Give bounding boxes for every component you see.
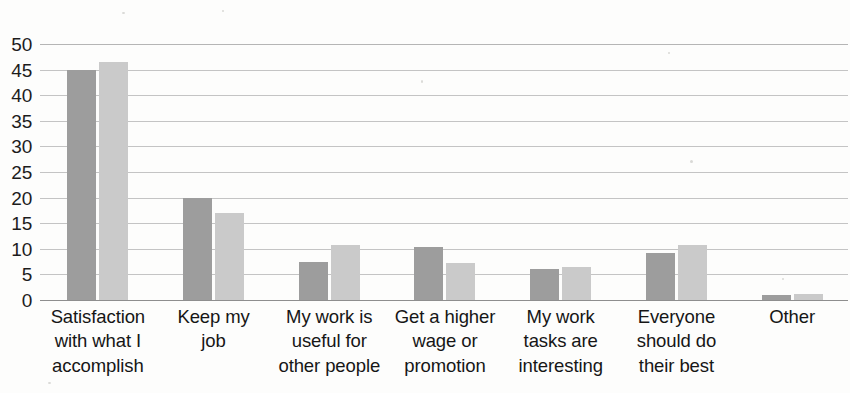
bar-1 — [331, 245, 360, 300]
y-tick-label: 35 — [11, 111, 32, 130]
category-label-line: accomplish — [40, 354, 156, 378]
bar-0 — [530, 269, 559, 300]
category-label-line: Other — [734, 305, 850, 329]
y-tick-label: 15 — [11, 214, 32, 233]
category-label-line: their best — [619, 354, 735, 378]
category-label: Other — [734, 305, 850, 329]
category-label: Keep myjob — [156, 305, 272, 354]
y-tick-label: 45 — [11, 60, 32, 79]
category-label-line: Get a higher — [387, 305, 503, 329]
bar-group — [40, 44, 156, 300]
y-tick-label: 25 — [11, 163, 32, 182]
bar-1 — [215, 213, 244, 300]
y-tick-label: 30 — [11, 137, 32, 156]
bar-group — [271, 44, 387, 300]
bar-group — [156, 44, 272, 300]
bar-group — [387, 44, 503, 300]
category-label: My work isuseful forother people — [271, 305, 387, 378]
chart-screenshot: 05101520253035404550 Satisfactionwith wh… — [0, 0, 850, 393]
bar-1 — [99, 62, 128, 300]
bar-1 — [794, 294, 823, 300]
y-tick-label: 50 — [11, 35, 32, 54]
x-axis-category-labels: Satisfactionwith what IaccomplishKeep my… — [40, 305, 850, 393]
bar-group — [619, 44, 735, 300]
category-label-line: useful for — [271, 329, 387, 353]
y-tick-label: 5 — [22, 265, 32, 284]
y-tick-label: 0 — [22, 291, 32, 310]
bar-1 — [678, 245, 707, 300]
bar-1 — [562, 267, 591, 300]
category-label-line: Satisfaction — [40, 305, 156, 329]
bar-0 — [183, 198, 212, 300]
y-tick-label: 20 — [11, 188, 32, 207]
bar-0 — [414, 247, 443, 300]
category-label: Satisfactionwith what Iaccomplish — [40, 305, 156, 378]
bar-0 — [762, 295, 791, 300]
bar-1 — [446, 263, 475, 300]
category-label-line: tasks are — [503, 329, 619, 353]
bar-0 — [646, 253, 675, 300]
category-label-line: interesting — [503, 354, 619, 378]
bar-chart: 05101520253035404550 Satisfactionwith wh… — [0, 0, 850, 393]
bar-group — [734, 44, 850, 300]
category-label-line: My work — [503, 305, 619, 329]
category-label-line: job — [156, 329, 272, 353]
category-label-line: promotion — [387, 354, 503, 378]
y-tick-label: 40 — [11, 86, 32, 105]
category-label-line: with what I — [40, 329, 156, 353]
category-label-line: Keep my — [156, 305, 272, 329]
y-axis: 05101520253035404550 — [0, 0, 36, 393]
bar-0 — [299, 262, 328, 300]
bar-group — [503, 44, 619, 300]
bar-0 — [67, 70, 96, 300]
category-label: Get a higherwage orpromotion — [387, 305, 503, 378]
category-label-line: other people — [271, 354, 387, 378]
category-label-line: My work is — [271, 305, 387, 329]
category-label-line: wage or — [387, 329, 503, 353]
y-tick-label: 10 — [11, 239, 32, 258]
category-label-line: Everyone — [619, 305, 735, 329]
category-label-line: should do — [619, 329, 735, 353]
category-label: My worktasks areinteresting — [503, 305, 619, 378]
category-label: Everyoneshould dotheir best — [619, 305, 735, 378]
